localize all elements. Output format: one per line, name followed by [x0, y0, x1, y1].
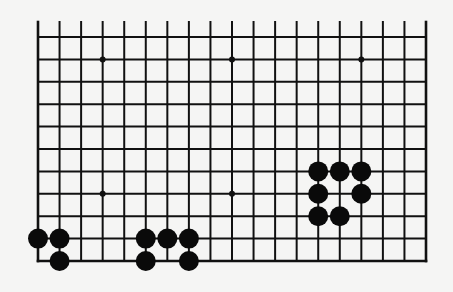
- black-stone: [308, 161, 328, 181]
- black-stone: [351, 184, 371, 204]
- black-stone: [28, 229, 48, 249]
- black-stone: [179, 251, 199, 271]
- black-stone: [136, 229, 156, 249]
- go-board: [0, 0, 453, 292]
- star-point: [229, 56, 235, 62]
- black-stone: [330, 161, 350, 181]
- star-point: [358, 56, 364, 62]
- black-stone: [50, 229, 70, 249]
- black-stone: [50, 251, 70, 271]
- black-stone: [179, 229, 199, 249]
- black-stone: [351, 161, 371, 181]
- black-stone: [330, 206, 350, 226]
- black-stone: [308, 184, 328, 204]
- black-stone: [136, 251, 156, 271]
- black-stone: [308, 206, 328, 226]
- star-point: [100, 56, 106, 62]
- black-stone: [157, 229, 177, 249]
- go-board-diagram: [0, 0, 453, 292]
- star-point: [100, 191, 106, 197]
- star-point: [229, 191, 235, 197]
